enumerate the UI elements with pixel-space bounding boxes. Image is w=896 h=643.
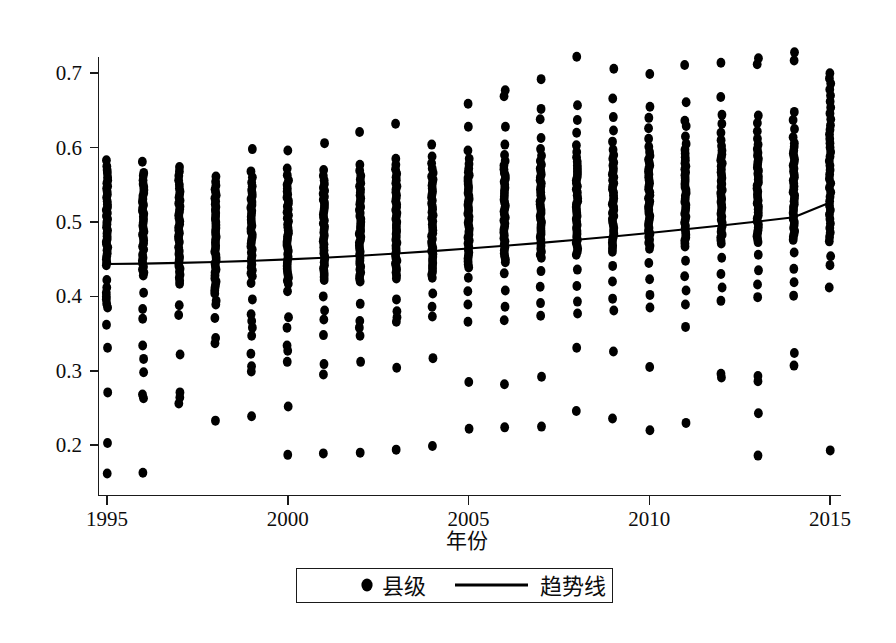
scatter-point [754, 265, 763, 275]
scatter-point [789, 264, 798, 274]
scatter-point [718, 110, 727, 120]
scatter-point [537, 253, 546, 263]
scatter-point [789, 235, 798, 245]
scatter-point [174, 399, 183, 409]
scatter-point [392, 363, 401, 373]
scatter-point [139, 393, 148, 403]
scatter-point [103, 303, 112, 313]
scatter-point [103, 387, 112, 397]
scatter-point [103, 343, 112, 353]
scatter-point [500, 422, 509, 432]
scatter-point [790, 348, 799, 358]
scatter-point [320, 306, 329, 316]
scatter-point [210, 313, 219, 323]
scatter-point [319, 370, 328, 380]
scatter-point [464, 99, 473, 109]
scatter-point [138, 304, 147, 314]
scatter-point [644, 123, 653, 133]
scatter-point [211, 416, 220, 426]
scatter-point [718, 282, 727, 292]
y-tick-label: 0.3 [56, 359, 82, 383]
scatter-point [646, 290, 655, 300]
scatter-chart-figure: 0.20.30.40.50.60.7 19952000200520102015 … [0, 0, 896, 643]
scatter-point [175, 300, 184, 310]
scatter-point [319, 330, 328, 340]
scatter-point [753, 292, 762, 302]
x-tick-label: 2015 [809, 507, 851, 531]
scatter-point [573, 100, 582, 110]
scatter-point [609, 112, 618, 122]
scatter-point [319, 314, 328, 324]
scatter-point [248, 144, 257, 154]
scatter-point [391, 119, 400, 129]
scatter-point [465, 424, 474, 434]
scatter-point [609, 64, 618, 74]
scatter-point [463, 286, 472, 296]
scatter-point [138, 314, 147, 324]
scatter-point [754, 237, 763, 247]
y-tick-label: 0.2 [56, 433, 82, 457]
scatter-point [139, 288, 148, 298]
scatter-point [283, 450, 292, 460]
scatter-point [500, 91, 509, 101]
scatter-point [319, 291, 328, 301]
scatter-point [501, 302, 510, 312]
x-tick-label: 2005 [448, 507, 490, 531]
scatter-point [645, 362, 654, 372]
scatter-point [283, 357, 292, 367]
x-tick-label: 1995 [86, 507, 128, 531]
scatter-point [139, 271, 148, 281]
scatter-point [392, 317, 401, 327]
scatter-point [283, 146, 292, 156]
scatter-point [790, 361, 799, 371]
scatter-point [429, 353, 438, 363]
scatter-point [283, 286, 292, 296]
scatter-point [174, 310, 183, 320]
scatter-point [464, 273, 473, 283]
scatter-point [717, 296, 726, 306]
scatter-point [356, 299, 365, 309]
scatter-point [537, 422, 546, 432]
scatter-point [717, 58, 726, 68]
scatter-point [320, 275, 329, 285]
scatter-point [608, 247, 617, 257]
scatter-point [753, 280, 762, 290]
scatter-point [500, 140, 509, 150]
scatter-point [644, 258, 653, 268]
scatter-point [826, 260, 835, 270]
scatter-point [284, 402, 293, 412]
scatter-point [319, 448, 328, 458]
scatter-point [608, 294, 617, 304]
scatter-point [428, 441, 437, 451]
scatter-point [428, 288, 437, 298]
y-tick-label: 0.6 [56, 136, 82, 160]
y-tick-label: 0.5 [56, 210, 82, 234]
scatter-point [753, 59, 762, 69]
scatter-point [825, 236, 834, 246]
scatter-point [609, 346, 618, 356]
scatter-point [572, 128, 581, 138]
scatter-point [501, 257, 510, 267]
scatter-point [789, 291, 798, 301]
scatter-point [392, 445, 401, 455]
scatter-point [356, 357, 365, 367]
scatter-point [102, 260, 111, 270]
scatter-point [646, 303, 655, 313]
scatter-point [572, 250, 581, 260]
scatter-point [573, 297, 582, 307]
y-tick-label: 0.7 [56, 61, 82, 85]
scatter-point [500, 315, 509, 325]
scatter-point [682, 418, 691, 428]
scatter-point [573, 309, 582, 319]
scatter-point [790, 56, 799, 66]
scatter-point [754, 250, 763, 260]
scatter-point [681, 256, 690, 266]
scatter-point [681, 322, 690, 332]
scatter-point [175, 279, 184, 289]
scatter-point [464, 317, 473, 327]
scatter-point [754, 408, 763, 418]
scatter-point [716, 92, 725, 102]
scatter-point [102, 320, 111, 330]
scatter-point [356, 331, 365, 341]
scatter-point [139, 367, 148, 377]
